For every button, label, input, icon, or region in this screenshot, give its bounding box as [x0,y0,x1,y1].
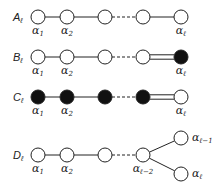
dynkin-diagrams: Aℓα1α2αℓBℓα1α2αℓCℓα1α2αℓDℓα1α2αℓ−2αℓ−1αℓ [0,0,218,188]
open-node-icon [60,10,74,24]
filled-node-icon [60,90,74,104]
node-label: αℓ−2 [133,162,154,176]
filled-node-icon [136,90,150,104]
filled-node-icon [98,90,112,104]
open-node-icon [174,10,188,24]
node-label: α1 [32,104,44,118]
filled-node-icon [174,50,188,64]
diagram-label: Dℓ [13,149,24,162]
node-label: α2 [61,24,73,38]
diagram-label: Cℓ [13,91,24,104]
open-node-icon [31,10,45,24]
diagram-b: Bℓα1α2αℓ [13,50,188,78]
node-label: αℓ−1 [192,131,213,145]
node-label: αℓ [176,104,186,118]
open-node-icon [60,148,74,162]
node-label: α2 [61,64,73,78]
node-label: α2 [61,104,73,118]
open-node-icon [98,148,112,162]
node-label: α1 [32,24,44,38]
single-edge [149,141,174,152]
diagram-label: Aℓ [12,11,23,24]
diagram-label: Bℓ [13,51,23,64]
open-node-icon [98,10,112,24]
open-node-icon [174,167,188,181]
node-label: α1 [32,64,44,78]
diagram-d: Dℓα1α2αℓ−2αℓ−1αℓ [13,131,213,181]
open-node-icon [98,50,112,64]
node-label: αℓ [192,167,202,181]
filled-node-icon [31,90,45,104]
diagram-c: Cℓα1α2αℓ [13,90,188,118]
open-node-icon [174,90,188,104]
open-node-icon [136,50,150,64]
open-node-icon [31,148,45,162]
diagram-a: Aℓα1α2αℓ [12,10,188,38]
node-label: α1 [32,162,44,176]
open-node-icon [136,148,150,162]
open-node-icon [60,50,74,64]
node-label: αℓ [176,24,186,38]
node-label: αℓ [176,64,186,78]
open-node-icon [31,50,45,64]
node-label: α2 [61,162,73,176]
open-node-icon [136,10,150,24]
open-node-icon [174,131,188,145]
